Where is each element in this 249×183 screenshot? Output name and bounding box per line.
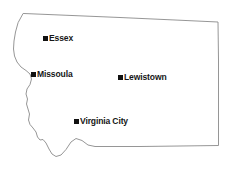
city-dot-icon <box>118 75 123 80</box>
city-dot-icon <box>31 72 36 77</box>
city-label: Lewistown <box>124 71 166 82</box>
city-dot-icon <box>74 119 79 124</box>
city-label: Essex <box>49 32 73 43</box>
map-canvas <box>0 0 249 183</box>
city-dot-icon <box>43 36 48 41</box>
city-label: Virginia City <box>80 115 128 126</box>
city-label: Missoula <box>37 68 73 79</box>
montana-map: EssexMissoulaLewistownVirginia City <box>0 0 249 183</box>
